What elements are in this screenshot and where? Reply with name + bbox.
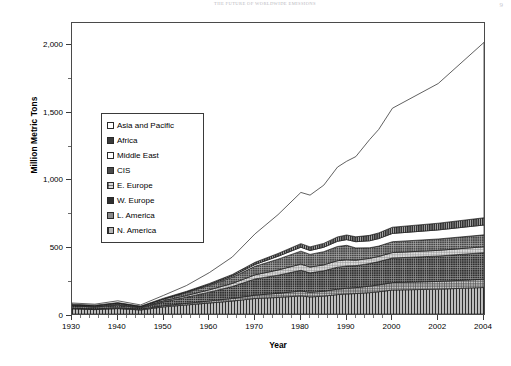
figure-page: THE FUTURE OF WORLDWIDE EMISSIONS 9 0 50… xyxy=(0,0,511,366)
x-tick-label: 2000 xyxy=(383,322,401,331)
legend-swatch-asia-and-pacific xyxy=(107,122,114,129)
x-tick-label: 1930 xyxy=(62,322,80,331)
legend-swatch-w-europe xyxy=(107,197,114,204)
legend-label: E. Europe xyxy=(117,181,153,190)
y-tick-label: 1,500 xyxy=(43,107,63,116)
x-tick-label: 1980 xyxy=(291,322,309,331)
y-axis-title: Million Metric Tons xyxy=(29,65,39,205)
legend-item: Africa xyxy=(107,133,198,148)
x-axis-tick-labels: 1930194019501960197019801990200020022004 xyxy=(0,317,511,357)
y-tick-label: 2,000 xyxy=(43,39,63,48)
legend-item: Asia and Pacific xyxy=(107,118,198,133)
legend-label: W. Europe xyxy=(117,196,154,205)
legend-swatch-e-europe xyxy=(107,182,114,189)
x-tick-label: 1990 xyxy=(337,322,355,331)
legend-label: Middle East xyxy=(117,151,159,160)
x-tick-label: 1940 xyxy=(108,322,126,331)
legend-item: Middle East xyxy=(107,148,198,163)
x-tick-label: 1960 xyxy=(199,322,217,331)
legend-item: L. America xyxy=(107,208,198,223)
legend-label: CIS xyxy=(117,166,130,175)
legend-label: Asia and Pacific xyxy=(117,121,174,130)
legend-item: N. America xyxy=(107,223,198,238)
legend-label: Africa xyxy=(117,136,137,145)
x-axis-title: Year xyxy=(71,340,485,350)
y-tick-label: 500 xyxy=(50,243,63,252)
legend-swatch-n-america xyxy=(107,227,114,234)
plot-area: Asia and Pacific Africa Middle East CIS … xyxy=(71,22,485,315)
y-tick-label: 1,000 xyxy=(43,175,63,184)
legend-item: CIS xyxy=(107,163,198,178)
x-tick-label: 1970 xyxy=(245,322,263,331)
x-tick-label: 1950 xyxy=(154,322,172,331)
legend-label: N. America xyxy=(117,226,156,235)
legend-item: W. Europe xyxy=(107,193,198,208)
chart-legend: Asia and Pacific Africa Middle East CIS … xyxy=(101,113,204,243)
legend-item: E. Europe xyxy=(107,178,198,193)
legend-swatch-l-america xyxy=(107,212,114,219)
x-tick-label: 2004 xyxy=(474,322,492,331)
legend-swatch-middle-east xyxy=(107,152,114,159)
legend-swatch-africa xyxy=(107,137,114,144)
legend-swatch-cis xyxy=(107,167,114,174)
x-tick-label: 2002 xyxy=(428,322,446,331)
legend-label: L. America xyxy=(117,211,155,220)
chart-figure: 0 500 1,000 1,500 2,000 Million Metric T… xyxy=(0,0,511,366)
